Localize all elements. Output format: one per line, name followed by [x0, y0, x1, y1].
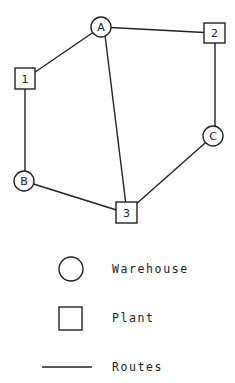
node-label: C: [209, 130, 217, 143]
network-diagram: A 2 1 C B 3 Warehouse Plant Routes: [0, 0, 235, 383]
node-warehouse-A: A: [91, 17, 111, 37]
legend-item-plant: Plant: [59, 307, 155, 330]
node-label: 3: [123, 207, 130, 220]
node-label: 2: [211, 27, 218, 40]
node-plant-3: 3: [116, 202, 137, 223]
node-warehouse-B: B: [14, 171, 34, 191]
route-A-3: [104, 27, 127, 213]
legend-label: Warehouse: [112, 262, 189, 276]
legend-item-warehouse: Warehouse: [59, 257, 189, 281]
node-label: B: [20, 175, 28, 188]
legend-item-routes: Routes: [42, 360, 163, 374]
route-B-3: [24, 181, 126, 213]
legend: Warehouse Plant Routes: [42, 257, 189, 374]
route-A-2: [101, 27, 214, 33]
node-label: A: [97, 21, 105, 34]
route-A-1: [25, 27, 101, 79]
node-plant-2: 2: [204, 23, 225, 43]
legend-label: Routes: [112, 360, 163, 374]
route-C-3: [126, 136, 213, 213]
node-warehouse-C: C: [203, 126, 223, 146]
node-label: 1: [22, 73, 29, 86]
plant-square-icon: [59, 307, 82, 330]
routes: [24, 27, 215, 213]
node-plant-1: 1: [15, 68, 35, 89]
legend-label: Plant: [112, 311, 155, 325]
warehouse-circle-icon: [59, 257, 83, 281]
